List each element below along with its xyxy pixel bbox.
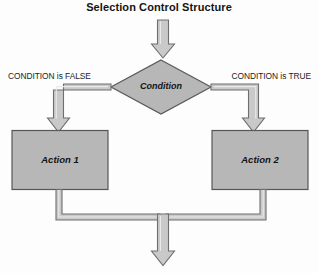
true-branch-connector	[211, 84, 265, 132]
flowchart-diagram: Selection Control Structure	[0, 0, 318, 273]
decision-label: Condition	[110, 81, 212, 91]
exit-arrow	[152, 214, 175, 266]
action-1-label: Action 1	[12, 154, 108, 165]
flowchart-canvas	[0, 0, 318, 273]
false-branch-connector	[48, 84, 112, 132]
false-branch-label: CONDITION is FALSE	[8, 71, 91, 81]
left-merge-connector	[56, 190, 160, 221]
right-merge-connector	[166, 190, 266, 221]
action-2-label: Action 2	[212, 154, 308, 165]
true-branch-label: CONDITION is TRUE	[232, 71, 312, 81]
entry-arrow	[152, 20, 175, 58]
